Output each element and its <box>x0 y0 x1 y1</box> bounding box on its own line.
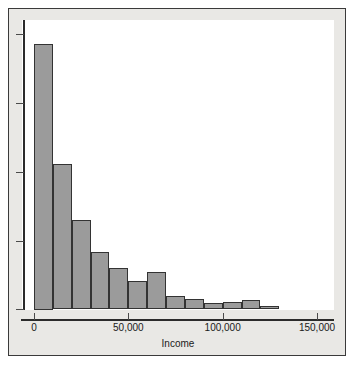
x-axis-tick-label: 150,000 <box>299 322 335 333</box>
histogram-bar <box>204 303 223 309</box>
histogram-figure: 050,000100,000150,000 Income <box>0 0 356 372</box>
histogram-bars <box>0 0 356 372</box>
x-axis-tick <box>128 313 129 320</box>
histogram-bar <box>260 306 279 309</box>
x-axis-tick <box>317 313 318 320</box>
x-axis-tick-label: 100,000 <box>205 322 241 333</box>
histogram-bar <box>72 220 91 310</box>
x-axis-tick <box>223 313 224 320</box>
histogram-bar <box>53 164 72 310</box>
x-axis-tick-label: 50,000 <box>113 322 144 333</box>
histogram-bar <box>185 299 204 309</box>
histogram-bar <box>242 300 261 309</box>
histogram-bar <box>147 272 166 309</box>
histogram-bar <box>109 268 128 309</box>
histogram-bar <box>34 44 53 310</box>
histogram-bar <box>91 252 110 309</box>
x-axis-title: Income <box>0 338 356 349</box>
x-axis-tick <box>34 313 35 320</box>
x-axis-tick-label: 0 <box>31 322 37 333</box>
histogram-bar <box>223 302 242 309</box>
histogram-bar <box>166 296 185 309</box>
histogram-bar <box>128 281 147 309</box>
